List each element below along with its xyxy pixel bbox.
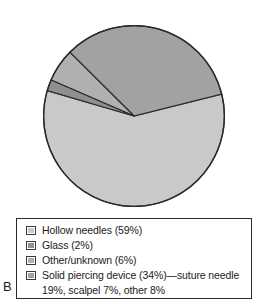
pie-chart-svg: [43, 25, 225, 207]
legend-label-solid-piercing-device-continued: 19%, scalpel 7%, other 8%: [17, 284, 251, 297]
legend-item-glass: Glass (2%): [17, 239, 251, 252]
panel-letter: B: [3, 279, 12, 294]
legend-label-other-unknown: Other/unknown (6%): [42, 254, 137, 267]
legend-swatch-hollow-needles: [26, 226, 36, 235]
figure-panel-b: Hollow needles (59%) Glass (2%) Other/un…: [0, 0, 264, 307]
legend-item-solid-piercing-device: Solid piercing device (34%)—suture needl…: [17, 269, 251, 282]
pie-chart: [43, 25, 225, 207]
legend-label-solid-piercing-device: Solid piercing device (34%)—suture needl…: [42, 269, 239, 282]
legend-swatch-solid-piercing-device: [26, 271, 36, 280]
legend-label-hollow-needles: Hollow needles (59%): [42, 224, 142, 237]
legend-item-hollow-needles: Hollow needles (59%): [17, 224, 251, 237]
legend-label-glass: Glass (2%): [42, 239, 93, 252]
legend-item-other-unknown: Other/unknown (6%): [17, 254, 251, 267]
legend-swatch-glass: [26, 241, 36, 250]
legend: Hollow needles (59%) Glass (2%) Other/un…: [16, 218, 252, 299]
legend-swatch-other-unknown: [26, 256, 36, 265]
